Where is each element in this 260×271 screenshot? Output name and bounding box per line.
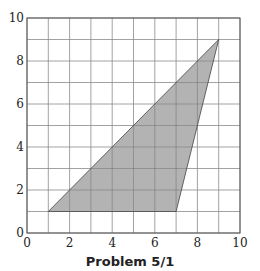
x-tick-label: 6: [151, 236, 159, 250]
y-axis-tick-labels: 0246810: [9, 11, 25, 240]
x-tick-label: 0: [23, 236, 31, 250]
x-tick-label: 10: [232, 236, 247, 250]
problem-figure: 0246810 0246810 Problem 5/1: [0, 0, 260, 271]
y-tick-label: 6: [16, 97, 24, 111]
y-tick-label: 0: [16, 226, 24, 240]
x-axis-tick-labels: 0246810: [23, 236, 247, 250]
y-tick-label: 2: [16, 183, 24, 197]
y-tick-label: 10: [9, 11, 24, 25]
x-tick-label: 2: [66, 236, 74, 250]
y-tick-label: 8: [16, 54, 24, 68]
y-tick-label: 4: [16, 140, 24, 154]
x-tick-label: 4: [108, 236, 116, 250]
figure-caption: Problem 5/1: [86, 254, 174, 269]
x-tick-label: 8: [194, 236, 202, 250]
